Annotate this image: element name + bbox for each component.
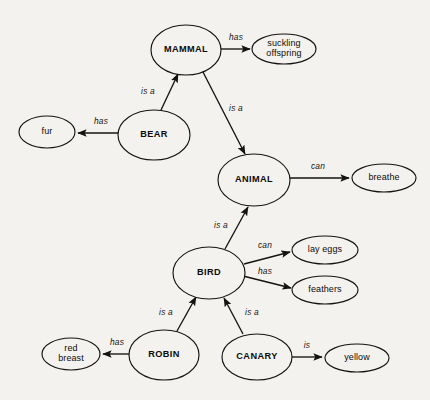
edge-label-mammal-has-suckling: has <box>229 32 244 42</box>
edge-label-bear-isa-mammal: is a <box>141 86 155 96</box>
node-animal[interactable]: ANIMAL <box>218 154 290 206</box>
node-mammal[interactable]: MAMMAL <box>151 25 221 75</box>
node-label-canary: CANARY <box>236 351 277 361</box>
node-suckling[interactable]: sucklingoffspring <box>252 34 316 64</box>
edge-bear-has-fur: has <box>78 116 118 133</box>
edge-arrow-canary-isa-bird <box>224 298 243 334</box>
edges-layer: hasis ahasis acanis acanhasis ahasis ais <box>78 32 349 357</box>
edge-arrow-bear-isa-mammal <box>161 74 178 110</box>
node-redbreast[interactable]: redbreast <box>42 338 100 370</box>
nodes-layer: MAMMALsucklingoffspringBEARfurANIMALbrea… <box>19 25 416 380</box>
node-label-bear: BEAR <box>140 129 168 139</box>
edge-label-canary-is-yellow: is <box>304 340 311 350</box>
edge-mammal-isa-animal: is a <box>203 72 245 154</box>
node-layeggs[interactable]: lay eggs <box>292 236 358 264</box>
edge-label-bird-can-layeggs: can <box>258 240 272 250</box>
edge-arrow-bird-can-layeggs <box>244 252 290 264</box>
node-label-line: red <box>64 343 77 353</box>
node-fur[interactable]: fur <box>19 116 75 148</box>
edge-label-robin-isa-bird: is a <box>159 307 173 317</box>
node-label-line: offspring <box>266 48 301 58</box>
edge-robin-has-redbreast: has <box>103 337 129 354</box>
node-label-suckling: sucklingoffspring <box>266 38 301 58</box>
edge-label-animal-can-breathe: can <box>311 161 325 171</box>
edge-mammal-has-suckling: has <box>221 32 250 49</box>
node-breathe[interactable]: breathe <box>352 164 416 192</box>
node-yellow[interactable]: yellow <box>325 344 389 372</box>
edge-label-bird-has-feathers: has <box>258 266 273 276</box>
edge-arrow-robin-isa-bird <box>177 297 196 331</box>
edge-canary-is-yellow: is <box>292 340 322 357</box>
edge-label-canary-isa-bird: is a <box>245 307 259 317</box>
edge-robin-isa-bird: is a <box>159 297 196 331</box>
node-label-animal: ANIMAL <box>235 174 273 184</box>
node-bear[interactable]: BEAR <box>118 110 190 160</box>
edge-bird-isa-animal: is a <box>214 207 248 249</box>
edge-arrow-bird-has-feathers <box>243 276 291 288</box>
edge-bird-can-layeggs: can <box>244 240 290 264</box>
edge-label-bird-isa-animal: is a <box>214 220 228 230</box>
semantic-network-diagram: hasis ahasis acanis acanhasis ahasis ais… <box>0 0 430 400</box>
node-label-fur: fur <box>42 126 53 136</box>
node-label-feathers: feathers <box>308 284 342 294</box>
network-canvas: hasis ahasis acanis acanhasis ahasis ais… <box>0 0 430 400</box>
node-label-layeggs: lay eggs <box>308 244 343 254</box>
node-label-robin: ROBIN <box>148 349 180 359</box>
node-bird[interactable]: BIRD <box>173 247 245 299</box>
node-robin[interactable]: ROBIN <box>129 330 199 380</box>
node-label-mammal: MAMMAL <box>164 44 208 54</box>
node-feathers[interactable]: feathers <box>292 276 358 304</box>
node-label-bird: BIRD <box>197 267 221 277</box>
edge-label-mammal-isa-animal: is a <box>229 103 243 113</box>
edge-bird-has-feathers: has <box>243 266 291 288</box>
node-label-line: breast <box>58 353 84 363</box>
edge-label-bear-has-fur: has <box>94 116 109 126</box>
edge-animal-can-breathe: can <box>290 161 349 178</box>
edge-label-robin-has-redbreast: has <box>110 337 125 347</box>
edge-canary-isa-bird: is a <box>224 298 259 334</box>
node-label-yellow: yellow <box>344 352 370 362</box>
node-canary[interactable]: CANARY <box>222 334 292 380</box>
node-label-line: suckling <box>267 38 300 48</box>
edge-arrow-bird-isa-animal <box>225 207 248 249</box>
node-label-breathe: breathe <box>368 172 399 182</box>
edge-bear-isa-mammal: is a <box>141 74 178 110</box>
